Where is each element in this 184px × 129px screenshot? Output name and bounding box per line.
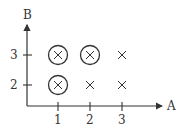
x-tick-label: 2	[86, 113, 94, 127]
x-axis-label: A	[166, 99, 176, 113]
y-tick-label: 3	[10, 48, 18, 62]
x-tick-label: 3	[118, 113, 126, 127]
point-2-2	[86, 81, 94, 89]
chart-root: B A 3 2 1 2 3	[0, 0, 184, 129]
point-1-2	[49, 76, 68, 95]
y-tick-label: 2	[10, 78, 18, 92]
y-axis-label: B	[23, 8, 32, 22]
scatter-plot: B A 3 2 1 2 3	[0, 0, 184, 129]
x-tick-label: 1	[54, 113, 62, 127]
point-3-3	[118, 51, 126, 59]
point-3-2	[118, 81, 126, 89]
point-2-3	[81, 46, 100, 65]
point-1-3	[49, 46, 68, 65]
